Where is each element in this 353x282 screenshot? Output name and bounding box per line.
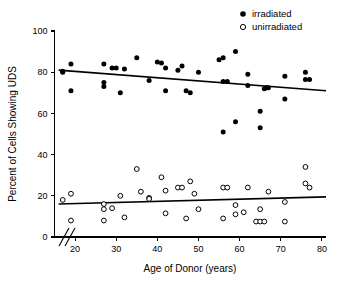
data-point-irradiated-8 [114, 66, 119, 71]
data-point-irradiated-30 [245, 83, 250, 88]
data-point-unirradiated-13 [159, 175, 164, 180]
data-point-irradiated-32 [258, 125, 263, 130]
data-point-unirradiated-9 [134, 167, 139, 172]
data-point-irradiated-1 [60, 69, 65, 74]
data-point-unirradiated-27 [241, 210, 246, 215]
data-point-unirradiated-3 [101, 202, 106, 207]
legend-label-irradiated: irradiated [252, 8, 292, 19]
data-point-unirradiated-10 [138, 189, 143, 194]
data-point-irradiated-21 [196, 70, 201, 75]
regression-lines [59, 70, 326, 204]
data-point-irradiated-40 [307, 77, 312, 82]
data-point-irradiated-38 [303, 70, 308, 75]
data-point-unirradiated-18 [184, 216, 189, 221]
data-point-unirradiated-15 [163, 211, 168, 216]
data-point-unirradiated-28 [245, 185, 250, 190]
data-point-irradiated-15 [163, 66, 168, 71]
data-point-irradiated-36 [282, 74, 287, 79]
data-point-irradiated-26 [221, 129, 226, 134]
y-tick-label-20: 20 [37, 191, 47, 201]
scatter-plot-figure: 020406080100 20304050607080 Age of Donor… [0, 0, 353, 282]
x-tick-label-40: 40 [152, 244, 162, 254]
data-point-irradiated-4 [101, 61, 106, 66]
data-point-unirradiated-32 [262, 219, 267, 224]
plot-canvas: 020406080100 20304050607080 Age of Donor… [0, 0, 353, 282]
data-point-unirradiated-14 [163, 188, 168, 193]
data-point-irradiated-28 [233, 119, 238, 124]
chart-legend: irradiatedunirradiated [240, 8, 302, 32]
data-point-irradiated-9 [118, 90, 123, 95]
data-point-irradiated-37 [282, 96, 287, 101]
data-point-irradiated-35 [266, 85, 271, 90]
data-point-unirradiated-26 [233, 203, 238, 208]
data-point-irradiated-12 [147, 78, 152, 83]
data-point-irradiated-31 [258, 109, 263, 114]
x-axis-ticks: 20304050607080 [70, 237, 327, 254]
data-point-irradiated-18 [180, 64, 185, 69]
data-point-unirradiated-33 [266, 189, 271, 194]
data-point-unirradiated-4 [101, 207, 106, 212]
data-point-unirradiated-20 [192, 191, 197, 196]
data-point-unirradiated-34 [282, 200, 287, 205]
x-axis-title: Age of Donor (years) [144, 263, 237, 274]
data-point-irradiated-17 [175, 68, 180, 73]
x-tick-label-50: 50 [193, 244, 203, 254]
data-point-irradiated-10 [122, 67, 127, 72]
data-point-unirradiated-6 [110, 206, 115, 211]
x-tick-label-30: 30 [111, 244, 121, 254]
x-tick-label-60: 60 [235, 244, 245, 254]
data-point-irradiated-2 [68, 61, 73, 66]
regression-line-irradiated [59, 70, 326, 91]
data-point-unirradiated-25 [233, 212, 238, 217]
data-point-unirradiated-24 [225, 185, 230, 190]
data-point-unirradiated-22 [221, 216, 226, 221]
data-point-unirradiated-19 [188, 179, 193, 184]
data-point-irradiated-3 [68, 88, 73, 93]
x-tick-label-80: 80 [317, 244, 327, 254]
data-point-irradiated-11 [134, 55, 139, 60]
y-tick-label-80: 80 [37, 67, 47, 77]
data-point-irradiated-6 [101, 84, 106, 89]
data-point-unirradiated-7 [118, 193, 123, 198]
legend-marker-irradiated [240, 11, 246, 17]
y-tick-label-60: 60 [37, 109, 47, 119]
data-point-unirradiated-21 [196, 207, 201, 212]
data-point-unirradiated-5 [101, 218, 106, 223]
legend-label-unirradiated: unirradiated [252, 21, 302, 32]
data-point-unirradiated-1 [69, 191, 74, 196]
data-point-irradiated-25 [225, 79, 230, 84]
x-tick-label-70: 70 [276, 244, 286, 254]
axes [55, 31, 327, 237]
data-point-unirradiated-38 [307, 185, 312, 190]
y-tick-label-40: 40 [37, 150, 47, 160]
legend-marker-unirradiated [240, 24, 245, 29]
data-point-irradiated-27 [233, 49, 238, 54]
data-point-unirradiated-17 [180, 185, 185, 190]
y-tick-label-0: 0 [42, 232, 47, 242]
data-point-irradiated-29 [245, 72, 250, 77]
data-point-unirradiated-8 [122, 215, 127, 220]
data-point-unirradiated-0 [60, 198, 65, 203]
x-tick-label-20: 20 [70, 244, 80, 254]
data-point-unirradiated-12 [147, 196, 152, 201]
y-axis-ticks: 020406080100 [32, 26, 54, 242]
data-point-unirradiated-2 [69, 218, 74, 223]
data-point-unirradiated-36 [303, 165, 308, 170]
data-point-unirradiated-35 [282, 219, 287, 224]
y-tick-label-100: 100 [32, 26, 47, 36]
data-point-irradiated-23 [221, 55, 226, 60]
data-point-irradiated-20 [188, 90, 193, 95]
data-point-irradiated-14 [159, 60, 164, 65]
y-axis-title: Percent of Cells Showing UDS [7, 66, 18, 202]
data-point-irradiated-16 [163, 88, 168, 93]
data-point-unirradiated-37 [303, 181, 308, 186]
data-point-unirradiated-31 [258, 207, 263, 212]
